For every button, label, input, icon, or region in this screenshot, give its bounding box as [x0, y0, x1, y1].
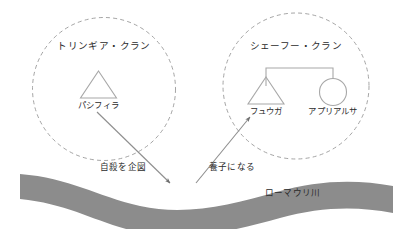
clan-title-shefu: シェーフー・クラン [250, 40, 343, 51]
node-name-apuriarusa: アプリアルサ [308, 106, 357, 116]
clan-title-trinngia: トリンギア・クラン [57, 40, 151, 51]
river-label: ローマウリ川 [265, 188, 320, 198]
node-name-fuuga: フュウガ [250, 106, 283, 116]
clan-kinship-diagram: トリンギア・クラン パシフィラ シェーフー・クラン フュウガ アプリアルサ 自殺… [0, 0, 393, 229]
node-name-pashifira: パシフィラ [78, 100, 119, 110]
relation-arrow-adoption [196, 117, 250, 183]
kin-symbol-circle-apuriarusa [320, 79, 347, 106]
river-band [20, 174, 393, 229]
relation-label-suicide-attempt: 自殺を企図 [100, 161, 146, 172]
kin-symbol-triangle-pashifira [81, 71, 117, 98]
clan-circle-shefu [223, 13, 369, 159]
clan-circle-trinngia [33, 18, 176, 161]
relation-arrow-suicide-attempt [97, 112, 170, 183]
relation-label-adoption: 養子になる [209, 161, 255, 172]
diagram-canvas: トリンギア・クラン パシフィラ シェーフー・クラン フュウガ アプリアルサ 自殺… [0, 0, 393, 229]
